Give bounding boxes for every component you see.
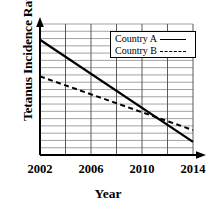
x-tick-label-2010: 2010 (120, 162, 164, 177)
y-axis-arrowhead (36, 17, 44, 27)
legend-item-country-b: Country B (115, 45, 186, 57)
x-axis-title: Year (0, 186, 216, 202)
legend-swatch-dashed-line (160, 46, 186, 56)
chart-legend: Country A Country B (110, 31, 196, 58)
x-tick-label-2014: 2014 (171, 162, 215, 177)
y-axis-title: Tetanus Incidence Rate (20, 0, 36, 136)
legend-swatch-solid-line (160, 34, 186, 44)
x-tick-label-2006: 2006 (69, 162, 113, 177)
x-tick-label-2002: 2002 (18, 162, 62, 177)
legend-label-country-b: Country B (115, 45, 157, 57)
legend-label-country-a: Country A (115, 33, 157, 45)
legend-item-country-a: Country A (115, 33, 186, 45)
x-axis-arrowhead (196, 151, 206, 159)
tetanus-incidence-line-chart: Tetanus Incidence Rate Year 200220062010… (0, 0, 216, 207)
